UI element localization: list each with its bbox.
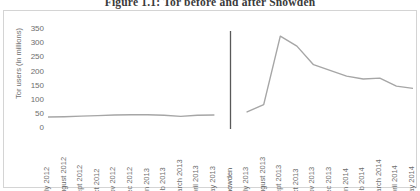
x-tick-label: July 2013	[241, 167, 250, 191]
x-tick-label: August 2012	[59, 157, 68, 191]
x-tick-label: March 2014	[374, 159, 383, 191]
x-tick-label: Sept 2012	[75, 165, 84, 191]
x-tick-label: May 2013	[208, 166, 217, 191]
x-tick-label: Oct 2013	[291, 169, 300, 191]
x-tick-label: Dec 2012	[125, 167, 134, 191]
x-tick-label: April 2013	[191, 165, 200, 191]
y-tick-label: 250	[22, 53, 44, 61]
y-tick-label: 50	[22, 110, 44, 118]
x-tick-label: July 2012	[42, 167, 51, 191]
y-tick-label: 200	[22, 68, 44, 76]
data-line	[48, 115, 214, 117]
y-tick-label: 0	[22, 124, 44, 132]
x-tick-label: Sept 2013	[274, 165, 283, 191]
x-tick-label: Nov 2013	[307, 167, 316, 191]
chart-frame: Tor users (in millions) 350 300 250 200 …	[3, 10, 417, 188]
y-tick-label: 300	[22, 39, 44, 47]
data-line	[247, 36, 413, 112]
figure-container: Figure 1.1: Tor before and after Snowden…	[0, 0, 420, 191]
x-tick-label: March 2013	[175, 159, 184, 191]
x-tick-label: Dec 2013	[324, 167, 333, 191]
x-tick-label: April 2014	[390, 165, 399, 191]
x-tick-label: Feb 2014	[357, 167, 366, 191]
x-tick-label: May 2014	[407, 166, 416, 191]
y-axis-ticks: 350 300 250 200 150 100 50 0	[18, 11, 44, 131]
x-axis-ticks: July 2012August 2012Sept 2012Oct 2012Nov…	[48, 131, 413, 191]
x-tick-label: Jan 2014	[341, 168, 350, 191]
x-tick-label: Nov 2012	[108, 167, 117, 191]
x-tick-label: Oct 2012	[92, 169, 101, 191]
plot-area	[48, 29, 413, 129]
x-tick-label: Feb 2013	[158, 167, 167, 191]
line-chart-svg	[48, 29, 413, 129]
y-tick-label: 100	[22, 96, 44, 104]
x-tick-label: Snowden	[225, 168, 234, 191]
x-tick-label: Jan 2013	[142, 168, 151, 191]
x-tick-label: August 2013	[258, 157, 267, 191]
y-tick-label: 150	[22, 82, 44, 90]
figure-title: Figure 1.1: Tor before and after Snowden	[0, 0, 420, 8]
y-tick-label: 350	[22, 25, 44, 33]
